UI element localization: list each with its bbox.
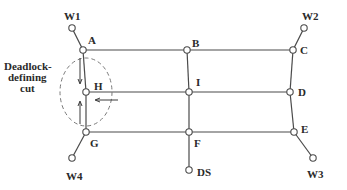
node-i xyxy=(186,89,192,95)
node-label-b: B xyxy=(192,37,200,49)
node-ds xyxy=(186,167,192,173)
node-label-g: G xyxy=(90,137,99,149)
node-label-c: C xyxy=(300,44,308,56)
node-label-w4: W4 xyxy=(66,170,83,182)
node-w1 xyxy=(69,25,75,31)
cut-label-line3: cut xyxy=(20,82,35,94)
node-label-f: F xyxy=(194,137,201,149)
node-a xyxy=(80,47,86,53)
node-w3 xyxy=(310,155,316,161)
node-label-w1: W1 xyxy=(64,10,81,22)
edge-e-w3 xyxy=(294,132,313,158)
edge-g-w4 xyxy=(72,132,86,158)
node-d xyxy=(287,89,293,95)
node-label-d: D xyxy=(298,86,306,98)
node-e xyxy=(291,129,297,135)
node-label-ds: DS xyxy=(197,166,211,178)
node-b xyxy=(184,47,190,53)
node-label-e: E xyxy=(301,123,308,135)
edge-d-e xyxy=(290,92,294,132)
node-labels: W1ABCW2HIDGFEW4DSW3 xyxy=(64,10,324,182)
node-label-h: H xyxy=(94,80,103,92)
node-w4 xyxy=(69,155,75,161)
node-label-w2: W2 xyxy=(302,10,319,22)
edge-c-d xyxy=(290,50,293,92)
node-c xyxy=(290,47,296,53)
edge-b-i xyxy=(187,50,189,92)
node-label-a: A xyxy=(88,34,96,46)
node-label-i: I xyxy=(196,76,200,88)
node-h xyxy=(83,89,89,95)
node-f xyxy=(186,129,192,135)
node-g xyxy=(83,129,89,135)
edges xyxy=(72,28,313,170)
node-w2 xyxy=(301,25,307,31)
node-label-w3: W3 xyxy=(307,168,324,180)
deadlock-network-diagram: Deadlock- defining cut W1ABCW2HIDGFEW4DS… xyxy=(0,0,347,190)
edge-a-h xyxy=(83,50,86,92)
